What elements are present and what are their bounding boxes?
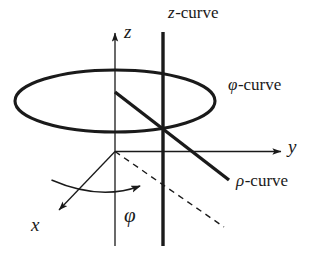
z-curve-suffix: -curve — [175, 3, 218, 22]
phi-curve-suffix: -curve — [238, 75, 281, 94]
diagram-canvas — [0, 0, 322, 258]
rho-curve-label: ρ-curve — [236, 172, 288, 189]
phi-angle-arc — [52, 180, 141, 192]
z-axis-label: z — [124, 22, 131, 41]
y-axis-label: y — [288, 137, 296, 156]
coordinate-diagram: z-curve φ-curve ρ-curve z y x φ — [0, 0, 322, 258]
phi-curve-label: φ-curve — [228, 76, 281, 93]
rho-curve-suffix: -curve — [245, 171, 288, 190]
x-axis-label: x — [31, 215, 39, 234]
phi-curve-symbol: φ — [228, 75, 238, 94]
z-curve-label: z-curve — [168, 4, 219, 21]
rho-curve-symbol: ρ — [236, 171, 245, 190]
x-axis — [59, 152, 115, 211]
phi-angle-label: φ — [124, 205, 136, 226]
rho-curve-line — [115, 92, 229, 180]
